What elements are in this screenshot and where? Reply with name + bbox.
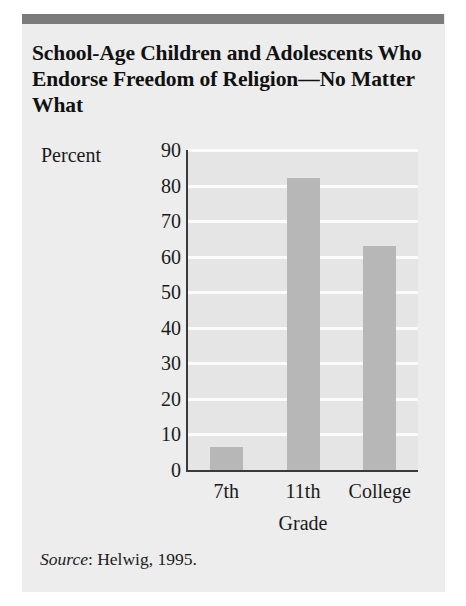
y-tick-label: 90 <box>147 140 181 160</box>
x-axis-line <box>186 470 418 472</box>
y-tick-label: 60 <box>147 247 181 267</box>
figure-title: School-Age Children and Adolescents Who … <box>32 40 432 118</box>
bar <box>210 447 243 470</box>
gridline <box>188 149 418 152</box>
y-tick-label: 40 <box>147 318 181 338</box>
source-label: Source <box>40 549 88 569</box>
y-axis-line <box>186 150 188 471</box>
y-tick-label: 30 <box>147 353 181 373</box>
y-tick-label: 10 <box>147 424 181 444</box>
y-tick-label: 70 <box>147 211 181 231</box>
x-tick-label: College <box>330 480 430 502</box>
bar <box>287 178 320 470</box>
bar <box>363 246 396 470</box>
y-tick-label: 80 <box>147 176 181 196</box>
top-rule-divider <box>22 14 444 24</box>
y-axis-label: Percent <box>41 144 101 167</box>
y-tick-label: 20 <box>147 389 181 409</box>
x-axis-label: Grade <box>188 512 418 535</box>
source-citation: : Helwig, 1995. <box>88 549 197 569</box>
y-tick-label: 0 <box>147 460 181 480</box>
source-note: Source: Helwig, 1995. <box>40 549 197 570</box>
plot-area: 0102030405060708090 7th11thCollege <box>188 150 418 470</box>
y-tick-label: 50 <box>147 282 181 302</box>
figure-container: School-Age Children and Adolescents Who … <box>0 0 466 606</box>
